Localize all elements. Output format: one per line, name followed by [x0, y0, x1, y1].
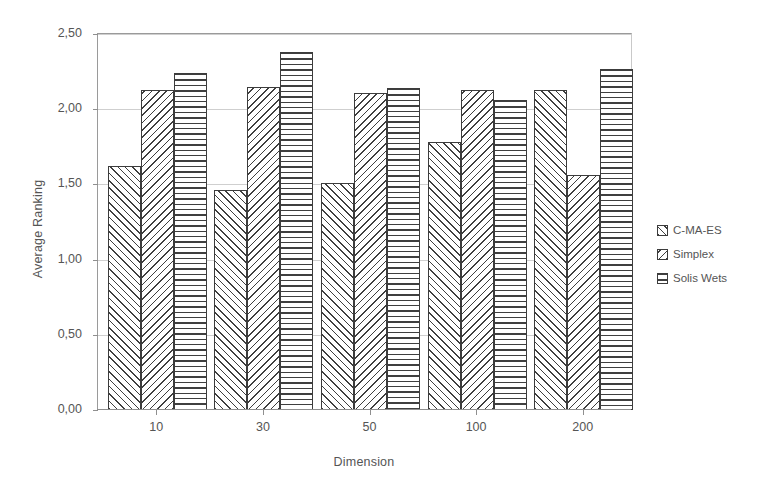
y-axis-tick-mark [93, 410, 98, 411]
x-axis-tick-label: 30 [223, 420, 303, 434]
x-axis-tick-label: 200 [543, 420, 623, 434]
legend-label: Solis Wets [673, 272, 727, 284]
bar [567, 175, 600, 410]
x-axis-tick-label: 10 [116, 420, 196, 434]
bar [214, 190, 247, 410]
legend-label: Simplex [673, 248, 714, 260]
x-axis-tick-mark [583, 409, 584, 415]
bar [387, 88, 420, 410]
bar-group [534, 34, 633, 410]
legend-item: C-MA-ES [657, 218, 761, 242]
plot-area [97, 33, 632, 410]
x-axis-tick-mark [263, 409, 264, 415]
bar-group [321, 34, 420, 410]
bar [108, 166, 141, 410]
legend-swatch-icon [657, 273, 668, 284]
y-axis-tick-label: 1,50 [30, 176, 82, 190]
bar [354, 93, 387, 410]
x-axis-tick-mark [370, 409, 371, 415]
bar [247, 87, 280, 410]
bar-group [428, 34, 527, 410]
bar [494, 100, 527, 410]
x-axis-title: Dimension [97, 455, 631, 469]
bar-group [214, 34, 313, 410]
bar [461, 90, 494, 410]
y-axis-tick-label: 2,50 [30, 26, 82, 40]
bar [534, 90, 567, 410]
y-axis-tick-label: 0,50 [30, 327, 82, 341]
legend-item: Solis Wets [657, 266, 761, 290]
legend-swatch-icon [657, 225, 668, 236]
x-axis-line [97, 409, 631, 410]
x-axis-tick-label: 50 [330, 420, 410, 434]
x-axis-tick-label: 100 [436, 420, 516, 434]
y-axis-tick-label: 2,00 [30, 101, 82, 115]
y-axis-tick-label: 0,00 [30, 402, 82, 416]
y-axis-tick-label: 1,00 [30, 252, 82, 266]
x-axis-tick-mark [476, 409, 477, 415]
bar [141, 90, 174, 410]
x-axis-tick-mark [156, 409, 157, 415]
legend-swatch-icon [657, 249, 668, 260]
bars-layer [98, 34, 631, 410]
legend-item: Simplex [657, 242, 761, 266]
bar-chart-figure: Average Ranking 0,000,501,001,502,002,50… [0, 0, 761, 500]
legend-label: C-MA-ES [673, 224, 722, 236]
bar [321, 183, 354, 410]
bar [174, 73, 207, 410]
chart-legend: C-MA-ESSimplexSolis Wets [657, 218, 761, 290]
bar [428, 142, 461, 410]
y-axis-tick-labels: 0,000,501,001,502,002,50 [30, 0, 82, 500]
bar [280, 52, 313, 410]
bar-group [108, 34, 207, 410]
bar [600, 69, 633, 410]
